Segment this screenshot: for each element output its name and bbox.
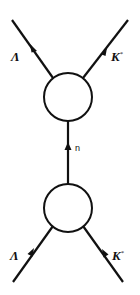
label-text: Λ	[10, 248, 19, 263]
arrow-icon	[30, 44, 37, 53]
bottom-left-lambda-line	[13, 226, 53, 282]
label-superscript: *	[120, 51, 123, 57]
bottom-vertex-circle	[44, 184, 92, 232]
top-vertex-circle	[44, 73, 92, 121]
label-text: K	[111, 49, 120, 64]
arrow-icon	[102, 249, 109, 258]
bottom-right-kstar-label: K*	[112, 249, 124, 262]
label-text: Λ	[11, 49, 20, 64]
bottom-left-lambda-label: Λ	[10, 249, 19, 262]
internal-n-label: n	[75, 144, 80, 153]
label-superscript: *	[121, 250, 124, 256]
top-right-kstar-line	[83, 20, 128, 78]
arrow-icon	[65, 142, 72, 150]
label-text: n	[75, 143, 80, 153]
top-left-lambda-label: Λ	[11, 50, 20, 63]
top-right-kstar-label: K*	[111, 50, 123, 63]
label-text: K	[112, 248, 121, 263]
internal-neutron-line	[65, 121, 72, 184]
